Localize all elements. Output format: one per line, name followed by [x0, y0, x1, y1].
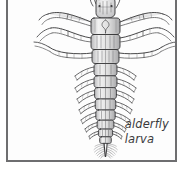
- caption-line-2: larva: [125, 132, 169, 147]
- terminal-filament: [94, 143, 117, 158]
- figure-root: alderfly larva: [0, 0, 196, 182]
- legs-left-group: [34, 13, 92, 59]
- illustration-plate-frame: alderfly larva: [6, 0, 177, 162]
- legs-right-group: [119, 13, 175, 59]
- head-capsule: [96, 0, 115, 18]
- caption-line-1: alderfly: [125, 117, 169, 132]
- thorax-segments: [91, 18, 120, 64]
- illustration-plate-inner: alderfly larva: [8, 0, 175, 160]
- figure-caption: alderfly larva: [125, 117, 169, 146]
